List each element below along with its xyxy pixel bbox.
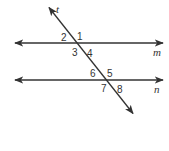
angle-label-1: 1 bbox=[77, 31, 83, 42]
transversal-t bbox=[49, 8, 133, 114]
angle-label-2: 2 bbox=[61, 32, 67, 43]
diagram-canvas: t m n 2 1 3 4 6 5 7 8 bbox=[0, 0, 169, 151]
angle-label-5: 5 bbox=[107, 68, 113, 79]
angle-label-6: 6 bbox=[90, 68, 96, 79]
angle-label-7: 7 bbox=[101, 83, 107, 94]
angle-label-8: 8 bbox=[117, 84, 123, 95]
angle-label-4: 4 bbox=[87, 48, 93, 59]
angle-label-3: 3 bbox=[72, 47, 78, 58]
label-m: m bbox=[153, 46, 161, 58]
label-n: n bbox=[154, 83, 160, 95]
label-t: t bbox=[56, 3, 60, 15]
